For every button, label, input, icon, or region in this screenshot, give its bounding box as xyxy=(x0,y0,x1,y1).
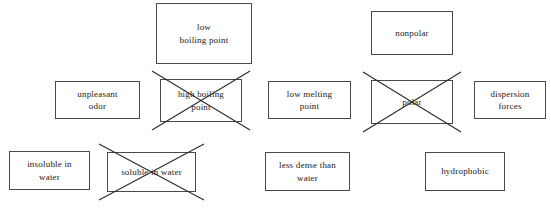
term-label-nonpolar: nonpolar xyxy=(392,27,432,39)
term-label-unpleasant-odor: unpleasant odor xyxy=(74,88,121,112)
term-label-hydrophobic: hydrophobic xyxy=(438,165,492,177)
term-label-soluble-in-water: soluble in water xyxy=(118,166,185,178)
term-label-less-dense-than-water: less dense than water xyxy=(276,159,339,183)
term-box-nonpolar[interactable]: nonpolar xyxy=(371,11,453,55)
term-box-high-boiling-point[interactable]: high boiling point xyxy=(160,79,242,122)
term-box-soluble-in-water[interactable]: soluble in water xyxy=(107,152,196,192)
term-label-dispersion-forces: dispersion forces xyxy=(488,88,533,112)
term-box-low-boiling-point[interactable]: low boiling point xyxy=(156,3,252,64)
term-box-hydrophobic[interactable]: hydrophobic xyxy=(425,152,505,191)
term-box-unpleasant-odor[interactable]: unpleasant odor xyxy=(55,81,140,119)
term-label-insoluble-in-water: insoluble in water xyxy=(24,158,75,182)
term-box-less-dense-than-water[interactable]: less dense than water xyxy=(265,152,350,191)
term-label-low-melting-point: low melting point xyxy=(284,88,335,112)
term-label-polar: polar xyxy=(399,96,425,108)
term-label-high-boiling-point: high boiling point xyxy=(175,88,227,112)
term-box-dispersion-forces[interactable]: dispersion forces xyxy=(474,81,546,119)
term-label-low-boiling-point: low boiling point xyxy=(177,21,232,45)
term-box-insoluble-in-water[interactable]: insoluble in water xyxy=(9,151,90,190)
diagram-canvas: low boiling pointnonpolarunpleasant odor… xyxy=(0,0,551,208)
term-box-low-melting-point[interactable]: low melting point xyxy=(268,81,351,119)
term-box-polar[interactable]: polar xyxy=(371,80,453,124)
